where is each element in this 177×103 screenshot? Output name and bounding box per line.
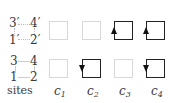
c2-top-plaquette xyxy=(82,21,101,40)
site-label-2: 2 xyxy=(30,71,38,83)
column-label-c1: c1 xyxy=(54,85,66,101)
arrow-down-icon xyxy=(79,65,85,72)
lattice-edge xyxy=(18,77,30,78)
column-label-c3: c3 xyxy=(119,85,131,101)
column-label-c2: c2 xyxy=(87,85,99,101)
lattice-edge xyxy=(18,24,30,25)
c1-top-plaquette xyxy=(49,21,68,40)
site-label-4: 4 xyxy=(30,55,38,67)
lattice-edge xyxy=(18,61,30,62)
site-label-4p: 4′ xyxy=(30,17,40,29)
sites-label: sites xyxy=(7,85,33,97)
c1-bottom-plaquette xyxy=(49,59,68,78)
arrow-up-icon xyxy=(111,27,117,34)
column-label-c4: c4 xyxy=(151,85,163,101)
lattice-edge xyxy=(18,39,30,40)
site-label-2p: 2′ xyxy=(30,34,40,46)
c3-bottom-plaquette xyxy=(114,59,133,78)
site-label-3: 3 xyxy=(10,55,18,67)
site-label-1p: 1′ xyxy=(9,34,19,46)
site-label-3p: 3′ xyxy=(9,17,19,29)
arrow-up-icon xyxy=(143,27,149,34)
site-label-1: 1 xyxy=(10,71,18,83)
arrow-down-icon xyxy=(143,65,149,72)
